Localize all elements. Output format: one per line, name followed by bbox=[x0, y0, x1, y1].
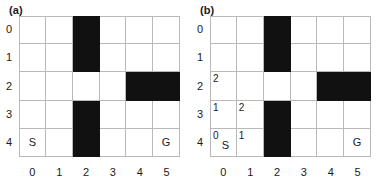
grid-cell bbox=[46, 16, 73, 44]
cell-value-label: 1 bbox=[213, 102, 219, 113]
start-marker: S bbox=[211, 129, 236, 156]
grid-cell bbox=[100, 129, 127, 157]
col-axis-label: 0 bbox=[22, 167, 42, 178]
start-marker: S bbox=[20, 129, 45, 156]
cell-value-label: 2 bbox=[213, 73, 219, 84]
cell-value-label: 2 bbox=[239, 102, 245, 113]
grid-cell: 0S bbox=[210, 129, 237, 157]
grid-cell: 1 bbox=[237, 129, 264, 157]
grid-cell bbox=[153, 16, 180, 44]
grid-cell bbox=[153, 44, 180, 72]
grid-a-cells: SG bbox=[19, 16, 180, 157]
grid-cell bbox=[19, 44, 46, 72]
panel-a-label: (a) bbox=[9, 4, 23, 16]
grid-cell bbox=[291, 101, 318, 129]
grid-cell bbox=[126, 101, 153, 129]
grid-cell bbox=[19, 16, 46, 44]
grid-cell-obstacle bbox=[264, 16, 291, 44]
grid-cell bbox=[237, 16, 264, 44]
grid-cell bbox=[100, 72, 127, 100]
row-axis-label: 3 bbox=[1, 109, 17, 120]
goal-marker: G bbox=[344, 129, 370, 156]
grid-cell-obstacle bbox=[344, 72, 371, 100]
grid-cell bbox=[317, 129, 344, 157]
grid-cell bbox=[46, 72, 73, 100]
col-axis-label: 0 bbox=[213, 167, 233, 178]
row-axis-label: 1 bbox=[1, 52, 17, 63]
grid-cell-obstacle bbox=[73, 129, 100, 157]
grid-cell bbox=[19, 72, 46, 100]
grid-cell: G bbox=[344, 129, 371, 157]
col-axis-label: 2 bbox=[267, 167, 287, 178]
grid-cell-obstacle bbox=[264, 44, 291, 72]
row-axis-label: 1 bbox=[192, 52, 208, 63]
grid-cell bbox=[19, 101, 46, 129]
row-axis-label: 3 bbox=[192, 109, 208, 120]
grid-cell bbox=[264, 72, 291, 100]
grid-cell bbox=[46, 129, 73, 157]
col-axis-label: 5 bbox=[157, 167, 177, 178]
grid-b-cells: 2120S1G bbox=[210, 16, 371, 157]
grid-cell bbox=[317, 101, 344, 129]
goal-marker: G bbox=[153, 129, 179, 156]
panel-b-label: (b) bbox=[200, 4, 214, 16]
row-axis-label: 4 bbox=[192, 137, 208, 148]
grid-cell bbox=[126, 129, 153, 157]
col-axis-label: 1 bbox=[49, 167, 69, 178]
cell-value-label: 1 bbox=[239, 130, 245, 141]
row-axis-label: 0 bbox=[1, 24, 17, 35]
grid-cell bbox=[210, 16, 237, 44]
panel-a: (a) SG 01234 012345 bbox=[0, 0, 191, 182]
grid-cell bbox=[344, 101, 371, 129]
grid-b: 2120S1G bbox=[210, 16, 371, 157]
grid-cell bbox=[344, 16, 371, 44]
col-axis-label: 2 bbox=[76, 167, 96, 178]
grid-cell bbox=[317, 16, 344, 44]
col-axis-label: 4 bbox=[321, 167, 341, 178]
grid-cell bbox=[100, 101, 127, 129]
grid-cell-obstacle bbox=[317, 72, 344, 100]
grid-cell-obstacle bbox=[126, 72, 153, 100]
grid-cell bbox=[210, 44, 237, 72]
grid-cell-obstacle bbox=[73, 101, 100, 129]
grid-cell-obstacle bbox=[264, 129, 291, 157]
grid-cell bbox=[73, 72, 100, 100]
grid-cell: 2 bbox=[210, 72, 237, 100]
grid-cell-obstacle bbox=[73, 44, 100, 72]
col-axis-label: 1 bbox=[240, 167, 260, 178]
col-axis-label: 5 bbox=[348, 167, 368, 178]
col-axis-label: 3 bbox=[103, 167, 123, 178]
panel-b: (b) 2120S1G 01234 012345 bbox=[191, 0, 382, 182]
grid-cell bbox=[291, 44, 318, 72]
grid-cell: G bbox=[153, 129, 180, 157]
row-axis-label: 2 bbox=[192, 81, 208, 92]
grid-cell-obstacle bbox=[73, 16, 100, 44]
grid-cell bbox=[46, 44, 73, 72]
col-axis-label: 3 bbox=[294, 167, 314, 178]
col-axis-label: 4 bbox=[130, 167, 150, 178]
grid-cell: S bbox=[19, 129, 46, 157]
grid-cell bbox=[237, 72, 264, 100]
grid-cell bbox=[291, 72, 318, 100]
grid-cell bbox=[153, 101, 180, 129]
grid-cell bbox=[237, 44, 264, 72]
grid-cell bbox=[291, 16, 318, 44]
row-axis-label: 2 bbox=[1, 81, 17, 92]
grid-cell bbox=[100, 16, 127, 44]
grid-cell bbox=[291, 129, 318, 157]
grid-cell-obstacle bbox=[153, 72, 180, 100]
grid-a: SG bbox=[19, 16, 180, 157]
grid-cell: 2 bbox=[237, 101, 264, 129]
row-axis-label: 0 bbox=[192, 24, 208, 35]
grid-cell bbox=[344, 44, 371, 72]
grid-cell bbox=[126, 16, 153, 44]
grid-cell bbox=[46, 101, 73, 129]
grid-cell bbox=[126, 44, 153, 72]
grid-cell-obstacle bbox=[264, 101, 291, 129]
grid-cell bbox=[317, 44, 344, 72]
grid-cell: 1 bbox=[210, 101, 237, 129]
row-axis-label: 4 bbox=[1, 137, 17, 148]
grid-cell bbox=[100, 44, 127, 72]
